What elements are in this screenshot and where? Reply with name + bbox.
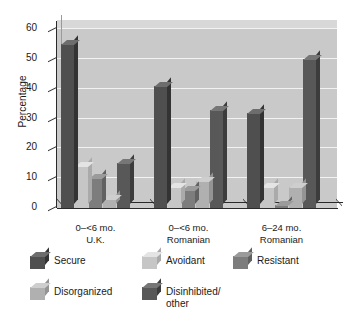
- bar-front-face: [61, 44, 74, 208]
- y-axis-tick-label: 50: [13, 52, 37, 63]
- legend-swatch: [30, 287, 45, 300]
- bar-side-face: [260, 104, 264, 204]
- legend-swatch: [30, 256, 45, 269]
- legend-swatch: [233, 256, 248, 269]
- gridline: [57, 118, 337, 119]
- legend-label: Avoidant: [166, 255, 205, 267]
- y-axis-tick-label: 40: [13, 82, 37, 93]
- bar-front-face: [247, 113, 260, 208]
- y-axis-tick: [48, 206, 57, 211]
- y-axis-tick-label: 0: [13, 201, 37, 212]
- gridline: [57, 28, 337, 29]
- x-axis: 0–<6 mo. U.K.0–<6 mo. Romanian6–24 mo. R…: [57, 208, 349, 218]
- gridline: [57, 58, 337, 59]
- bar-side-face: [167, 77, 171, 204]
- legend-label: Disorganized: [54, 286, 112, 298]
- bar: [275, 205, 288, 208]
- legend-swatch-front-face: [233, 256, 248, 269]
- bar-chart: Percentage 0102030405060 0–<6 mo. U.K.0–…: [0, 0, 349, 323]
- gridline: [57, 88, 337, 89]
- x-axis-category-label: 6–24 mo. Romanian: [237, 222, 327, 246]
- y-axis-tick-label: 60: [13, 22, 37, 33]
- y-axis-tick-label: 30: [13, 112, 37, 123]
- legend-swatch-front-face: [30, 287, 45, 300]
- legend-label: Secure: [54, 255, 86, 267]
- bar-side-face: [74, 35, 78, 204]
- legend-label: Disinhibited/ other: [166, 286, 220, 309]
- legend-item: Disorganized: [30, 286, 112, 300]
- bar-front-face: [103, 199, 116, 208]
- bar-side-face: [223, 101, 227, 204]
- legend-item: Disinhibited/ other: [142, 286, 220, 309]
- legend-swatch: [142, 287, 157, 300]
- y-axis: 0102030405060: [40, 14, 60, 214]
- bar: [61, 44, 74, 208]
- bar: [117, 163, 130, 208]
- legend-label: Resistant: [257, 255, 299, 267]
- gridline: [57, 147, 337, 148]
- bar-front-face: [154, 86, 167, 208]
- x-axis-line-front: [57, 208, 338, 209]
- legend-item: Secure: [30, 255, 86, 269]
- legend-swatch-front-face: [30, 256, 45, 269]
- plot-area: [57, 20, 337, 208]
- bar-side-face: [316, 50, 320, 204]
- bar-front-face: [117, 163, 130, 208]
- chart-legend: SecureAvoidantResistantDisorganizedDisin…: [30, 255, 349, 319]
- x-axis-category-label: 0–<6 mo. U.K.: [51, 222, 141, 246]
- legend-swatch: [142, 256, 157, 269]
- bar: [154, 86, 167, 208]
- legend-swatch-front-face: [142, 256, 157, 269]
- bar: [103, 199, 116, 208]
- legend-swatch-front-face: [142, 287, 157, 300]
- y-axis-tick-label: 10: [13, 171, 37, 182]
- y-axis-tick-label: 20: [13, 141, 37, 152]
- legend-item: Resistant: [233, 255, 299, 269]
- y-axis-line-front: [56, 21, 57, 208]
- legend-item: Avoidant: [142, 255, 205, 269]
- x-axis-category-label: 0–<6 mo. Romanian: [144, 222, 234, 246]
- bar: [247, 113, 260, 208]
